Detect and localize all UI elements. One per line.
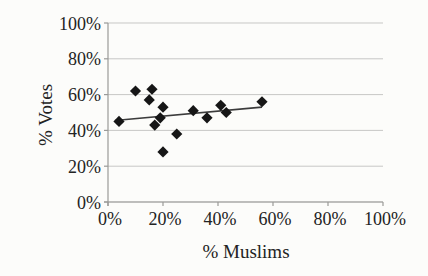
diamond-marker — [188, 105, 199, 116]
y-axis-title: % Votes — [35, 84, 56, 146]
diamond-marker — [157, 102, 168, 113]
diamond-marker — [201, 112, 212, 123]
axes-and-ticks — [104, 23, 383, 206]
y-tick-label: 100% — [59, 14, 101, 34]
diamond-marker — [144, 94, 155, 105]
x-tick-label: 40% — [204, 209, 237, 229]
x-tick-label: 100% — [364, 209, 406, 229]
diamond-marker — [157, 146, 168, 157]
votes-vs-muslims-scatter-plot: 0%20%40%60%80%100% 0%20%40%60%80%100% % … — [0, 0, 428, 276]
x-tick-label: 0% — [98, 209, 122, 229]
x-tick-label: 60% — [259, 209, 292, 229]
scatter-chart-figure: 0%20%40%60%80%100% 0%20%40%60%80%100% % … — [0, 0, 428, 276]
diamond-marker — [256, 96, 267, 107]
trend-line — [115, 107, 262, 120]
y-tick-label: 40% — [68, 121, 101, 141]
x-axis-tick-labels: 0%20%40%60%80%100% — [98, 209, 406, 229]
x-tick-label: 20% — [149, 209, 182, 229]
y-tick-label: 60% — [68, 85, 101, 105]
horizontal-gridlines — [108, 23, 383, 202]
y-tick-label: 20% — [68, 157, 101, 177]
x-axis-title: % Muslims — [202, 241, 289, 262]
y-tick-label: 80% — [68, 49, 101, 69]
x-tick-label: 80% — [314, 209, 347, 229]
diamond-marker — [113, 116, 124, 127]
diamond-marker — [146, 84, 157, 95]
y-axis-tick-labels: 0%20%40%60%80%100% — [59, 14, 101, 213]
